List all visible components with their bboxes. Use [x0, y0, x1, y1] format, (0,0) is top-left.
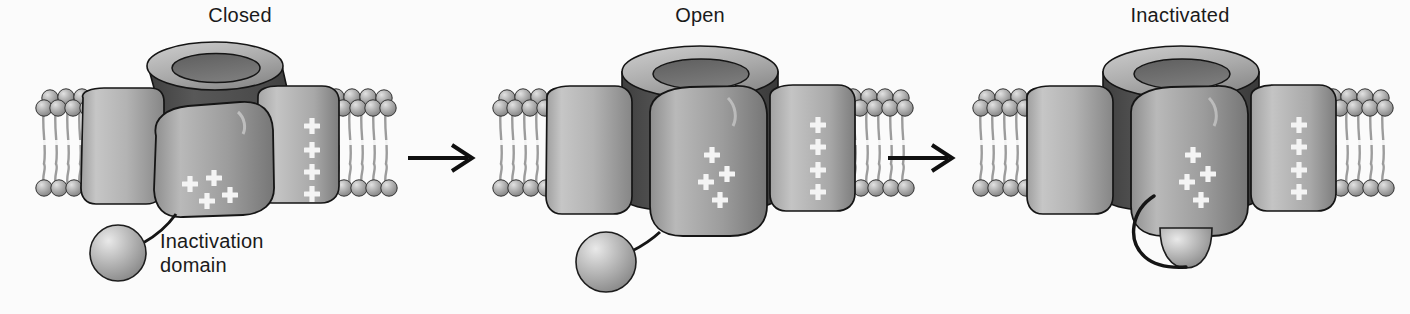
panel-closed: Closed Inactivation domain: [36, 4, 397, 281]
diagram-canvas: Closed Inactivation domain: [0, 0, 1410, 314]
inactivation-domain-label-line1: Inactivation: [160, 230, 264, 252]
arrow-open-to-inactivated: [888, 145, 952, 171]
inactivation-domain-ball-plugged: [1160, 228, 1212, 268]
panel-label-closed: Closed: [208, 4, 271, 26]
inactivation-domain-ball: [576, 232, 636, 292]
panel-open: Open: [493, 4, 914, 292]
channel-subunit-left: [546, 86, 632, 214]
inactivation-domain-ball: [90, 225, 146, 281]
panel-label-inactivated: Inactivated: [1131, 4, 1230, 26]
inactivation-domain-label-line2: domain: [160, 254, 227, 276]
channel-subunit-left: [1027, 86, 1113, 214]
channel-subunit-right: [1251, 85, 1336, 211]
panel-inactivated: Inactivated: [973, 4, 1394, 268]
arrow-closed-to-open: [408, 145, 472, 171]
channel-subunit-left: [81, 88, 164, 204]
voltage-sensor-closed: [154, 102, 274, 217]
inactivation-tether: [632, 232, 660, 251]
panel-label-open: Open: [675, 4, 725, 26]
channel-gating-figure: Closed Inactivation domain: [0, 0, 1410, 314]
channel-subunit-right: [770, 85, 855, 211]
voltage-sensor-open: [650, 86, 767, 236]
voltage-sensor-inactivated: [1131, 86, 1248, 236]
